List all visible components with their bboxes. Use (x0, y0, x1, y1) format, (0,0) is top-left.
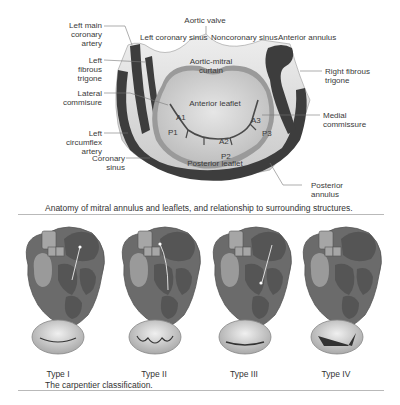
valve-type-2 (129, 320, 181, 354)
heart-type-1 (26, 227, 104, 328)
divider-bottom (18, 390, 384, 391)
label-type-2: Type II (124, 369, 184, 379)
label-type-1: Type I (28, 369, 88, 379)
label-type-3: Type III (214, 369, 274, 379)
figure-caption-carpentier: The carpentier classification. (45, 380, 153, 390)
carpentier-hearts-illustration (0, 0, 400, 405)
heart-type-3 (213, 227, 291, 328)
valve-type-1 (32, 320, 84, 354)
heart-type-2 (122, 227, 200, 328)
label-type-4: Type IV (306, 369, 366, 379)
valve-type-3 (219, 320, 271, 354)
heart-type-4 (303, 227, 381, 328)
